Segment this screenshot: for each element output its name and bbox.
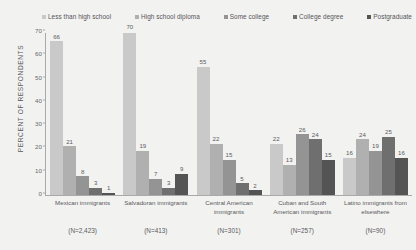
bar[interactable] bbox=[89, 188, 102, 195]
legend-item[interactable]: High school diploma bbox=[135, 14, 200, 20]
x-axis-category-label: Cuban and South American immigrants bbox=[266, 199, 339, 217]
bar-groups: 6621831701973955221552221326241516241925… bbox=[46, 33, 412, 195]
bar[interactable] bbox=[343, 158, 356, 195]
bar-value-label: 13 bbox=[283, 157, 296, 163]
bar-slot: 24 bbox=[309, 33, 322, 195]
bar-value-label: 24 bbox=[356, 132, 369, 138]
legend-swatch-icon bbox=[42, 15, 46, 19]
legend-swatch-icon bbox=[135, 15, 139, 19]
bar-slot: 55 bbox=[197, 33, 210, 195]
bar-value-label: 5 bbox=[236, 176, 249, 182]
bar-slot: 66 bbox=[50, 33, 63, 195]
bar-slot: 15 bbox=[223, 33, 236, 195]
bar-slot: 13 bbox=[283, 33, 296, 195]
bar-value-label: 19 bbox=[369, 143, 382, 149]
bar[interactable] bbox=[322, 160, 335, 195]
bar[interactable] bbox=[395, 158, 408, 195]
bar-slot: 19 bbox=[369, 33, 382, 195]
bar[interactable] bbox=[197, 67, 210, 195]
legend-swatch-icon bbox=[367, 15, 371, 19]
bar[interactable] bbox=[136, 151, 149, 195]
y-axis-ticks: 010203040506070 bbox=[0, 30, 45, 197]
y-axis-tick-label: 50 bbox=[2, 73, 42, 80]
bar-chart: Less than high schoolHigh school diploma… bbox=[0, 0, 416, 250]
bar[interactable] bbox=[249, 190, 262, 195]
y-axis-tick-label: 70 bbox=[2, 27, 42, 34]
bar-group: 7019739 bbox=[119, 33, 192, 195]
bar-group: 55221552 bbox=[192, 33, 265, 195]
y-axis-tick-label: 10 bbox=[2, 166, 42, 173]
bar-value-label: 15 bbox=[322, 152, 335, 158]
bar[interactable] bbox=[296, 134, 309, 195]
bar-slot: 16 bbox=[343, 33, 356, 195]
x-axis-category-label: Mexican immigrants bbox=[46, 199, 119, 217]
y-axis-tick-label: 20 bbox=[2, 143, 42, 150]
bar[interactable] bbox=[175, 174, 188, 195]
bar-group: 2213262415 bbox=[266, 33, 339, 195]
legend-label: Postgraduate bbox=[373, 14, 412, 20]
legend-item[interactable]: Some college bbox=[224, 14, 270, 20]
bar-value-label: 24 bbox=[309, 132, 322, 138]
y-axis-tick-label: 30 bbox=[2, 120, 42, 127]
bar-slot: 25 bbox=[382, 33, 395, 195]
bar-group: 1624192516 bbox=[339, 33, 412, 195]
legend-swatch-icon bbox=[293, 15, 297, 19]
legend-label: Some college bbox=[230, 14, 270, 20]
bar-value-label: 22 bbox=[270, 136, 283, 142]
bar-value-label: 22 bbox=[210, 136, 223, 142]
bar-value-label: 26 bbox=[296, 127, 309, 133]
x-axis-category-label: Salvadoran immigrants bbox=[119, 199, 192, 217]
x-axis-sample-size-label: (N=257) bbox=[266, 228, 339, 234]
bar-value-label: 9 bbox=[175, 166, 188, 172]
bar-value-label: 3 bbox=[162, 180, 175, 186]
bar[interactable] bbox=[149, 179, 162, 195]
bar[interactable] bbox=[270, 144, 283, 195]
x-axis-sample-size-label: (N=90) bbox=[339, 228, 412, 234]
legend-item[interactable]: Less than high school bbox=[42, 14, 111, 20]
bar[interactable] bbox=[236, 183, 249, 195]
bar-slot: 24 bbox=[356, 33, 369, 195]
bar-slot: 26 bbox=[296, 33, 309, 195]
y-axis-tick-mark bbox=[43, 30, 46, 31]
bar-value-label: 70 bbox=[123, 24, 136, 30]
legend-label: High school diploma bbox=[141, 14, 200, 20]
bar[interactable] bbox=[162, 188, 175, 195]
x-axis-category-labels: Mexican immigrantsSalvadoran immigrantsC… bbox=[46, 199, 412, 217]
bar-slot: 9 bbox=[175, 33, 188, 195]
bar[interactable] bbox=[210, 144, 223, 195]
bar[interactable] bbox=[369, 151, 382, 195]
bar-slot: 3 bbox=[162, 33, 175, 195]
bar-slot: 7 bbox=[149, 33, 162, 195]
bar[interactable] bbox=[309, 139, 322, 195]
bar[interactable] bbox=[223, 160, 236, 195]
bar-slot: 22 bbox=[270, 33, 283, 195]
bar[interactable] bbox=[102, 193, 115, 195]
bar[interactable] bbox=[382, 137, 395, 195]
y-axis-tick-label: 0 bbox=[2, 190, 42, 197]
bar-slot: 5 bbox=[236, 33, 249, 195]
legend-item[interactable]: College degree bbox=[293, 14, 343, 20]
x-axis-sample-size-label: (N=2,423) bbox=[46, 228, 119, 234]
bar-value-label: 1 bbox=[102, 185, 115, 191]
x-axis-sample-size-label: (N=413) bbox=[119, 228, 192, 234]
bar-value-label: 25 bbox=[382, 129, 395, 135]
bar[interactable] bbox=[123, 33, 136, 195]
bar-value-label: 8 bbox=[76, 169, 89, 175]
bar-value-label: 16 bbox=[395, 150, 408, 156]
legend-label: Less than high school bbox=[48, 14, 111, 20]
bar-slot: 16 bbox=[395, 33, 408, 195]
bar-slot: 70 bbox=[123, 33, 136, 195]
bar[interactable] bbox=[63, 146, 76, 195]
legend-item[interactable]: Postgraduate bbox=[367, 14, 412, 20]
bar-value-label: 3 bbox=[89, 180, 102, 186]
bar-value-label: 66 bbox=[50, 34, 63, 40]
bar-value-label: 55 bbox=[197, 59, 210, 65]
bar-group: 6621831 bbox=[46, 33, 119, 195]
bar-slot: 19 bbox=[136, 33, 149, 195]
bar[interactable] bbox=[76, 176, 89, 195]
bar[interactable] bbox=[50, 41, 63, 195]
bar[interactable] bbox=[283, 165, 296, 195]
bar-value-label: 21 bbox=[63, 139, 76, 145]
bar-slot: 3 bbox=[89, 33, 102, 195]
bar[interactable] bbox=[356, 139, 369, 195]
